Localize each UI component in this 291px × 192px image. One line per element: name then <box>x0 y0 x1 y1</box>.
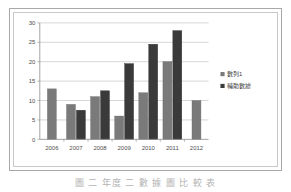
bar-series2 <box>173 31 182 140</box>
x-axis-tick-label: 2011 <box>166 145 179 151</box>
x-axis-tick-label: 2008 <box>93 145 107 151</box>
figure-frame: 051015202530 200620072008200920102011201… <box>9 8 282 171</box>
bar-series2 <box>149 44 158 139</box>
y-axis-tick-label: 10 <box>29 98 36 104</box>
x-axis-ticks-group: 2006200720082009201020112012 <box>45 139 203 151</box>
bar-series1 <box>91 97 100 140</box>
bar-series1 <box>139 93 148 140</box>
bar-series2 <box>125 64 134 140</box>
bar-series2 <box>76 110 85 139</box>
x-axis-tick-label: 2009 <box>118 145 132 151</box>
legend-swatch <box>220 84 224 88</box>
y-axis-tick-label: 5 <box>32 117 36 123</box>
x-axis-tick-label: 2010 <box>142 145 156 151</box>
legend: 數列1輔助數據 <box>220 70 251 90</box>
bar-series1 <box>115 116 124 139</box>
bar-chart: 051015202530 200620072008200920102011201… <box>14 13 277 166</box>
y-axis-tick-label: 30 <box>29 20 36 26</box>
bar-series1 <box>163 62 172 140</box>
y-axis-tick-label: 20 <box>29 59 36 65</box>
legend-label: 輔助數據 <box>227 82 251 90</box>
figure-caption: 圖 二 年度 二 數 據 圖 比 較 表 <box>0 176 291 189</box>
y-axis-ticks-group: 051015202530 <box>29 20 40 142</box>
y-axis-tick-label: 25 <box>29 39 36 45</box>
legend-swatch <box>220 72 224 76</box>
bar-series1 <box>47 89 56 139</box>
gridlines-group <box>40 23 209 120</box>
legend-label: 數列1 <box>227 70 242 78</box>
y-axis-tick-label: 15 <box>29 78 36 84</box>
x-axis-tick-label: 2007 <box>69 145 82 151</box>
x-axis-tick-label: 2012 <box>190 145 203 151</box>
bar-series1 <box>192 101 201 140</box>
figure-inner-frame: 051015202530 200620072008200920102011201… <box>13 12 278 167</box>
bars-group <box>47 31 201 140</box>
bar-series1 <box>67 104 76 139</box>
x-axis-tick-label: 2006 <box>45 145 59 151</box>
bar-series2 <box>101 91 110 140</box>
chart-canvas: 051015202530 200620072008200920102011201… <box>14 13 277 166</box>
y-axis-tick-label: 0 <box>32 137 36 143</box>
